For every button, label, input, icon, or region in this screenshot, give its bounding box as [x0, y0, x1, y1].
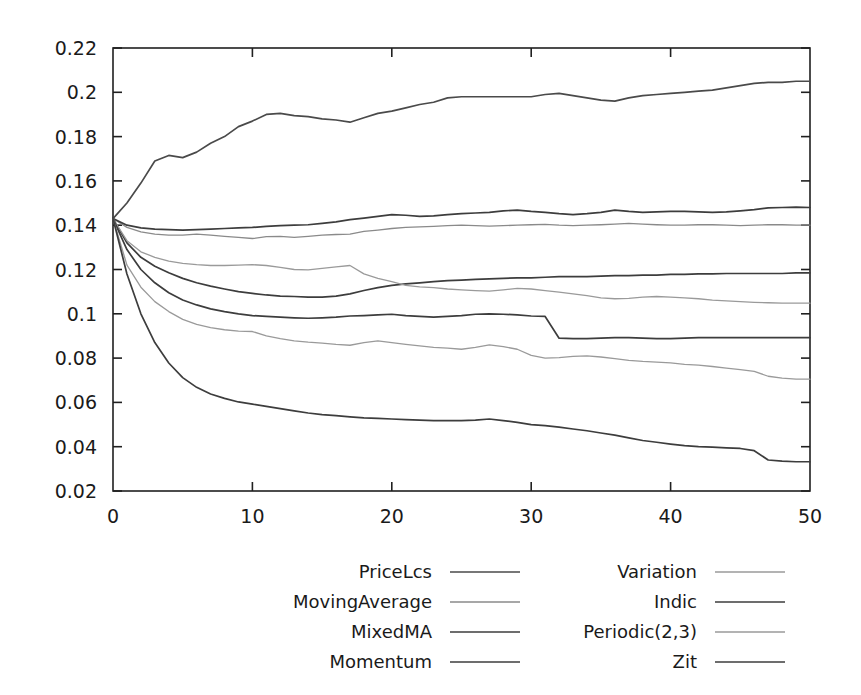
- x-tick-label: 20: [380, 505, 404, 527]
- y-tick-label: 0.06: [55, 391, 97, 413]
- legend-label-zit: Zit: [673, 651, 697, 672]
- y-tick-label: 0.08: [55, 347, 97, 369]
- x-tick-label: 10: [240, 505, 264, 527]
- legend-label-pricelcs: PriceLcs: [359, 561, 432, 582]
- legend-label-variation: Variation: [617, 561, 697, 582]
- y-tick-label: 0.22: [55, 37, 97, 59]
- legend-label-momentum: Momentum: [329, 651, 432, 672]
- chart-container: 0.020.040.060.080.10.120.140.160.180.20.…: [0, 0, 861, 695]
- y-tick-label: 0.02: [55, 480, 97, 502]
- y-tick-label: 0.12: [55, 259, 97, 281]
- x-tick-label: 50: [798, 505, 822, 527]
- legend-label-movingaverage: MovingAverage: [293, 591, 432, 612]
- legend-label-indic: Indic: [654, 591, 697, 612]
- y-tick-label: 0.2: [67, 81, 97, 103]
- y-tick-label: 0.1: [67, 303, 97, 325]
- x-tick-label: 30: [519, 505, 543, 527]
- x-tick-label: 0: [107, 505, 119, 527]
- x-tick-label: 40: [659, 505, 683, 527]
- line-chart: 0.020.040.060.080.10.120.140.160.180.20.…: [0, 0, 861, 695]
- y-tick-label: 0.04: [55, 436, 97, 458]
- legend-label-periodic-2-3: Periodic(2,3): [583, 621, 697, 642]
- y-tick-label: 0.14: [55, 214, 97, 236]
- y-tick-label: 0.18: [55, 126, 97, 148]
- legend-label-mixedma: MixedMA: [351, 621, 433, 642]
- y-tick-label: 0.16: [55, 170, 97, 192]
